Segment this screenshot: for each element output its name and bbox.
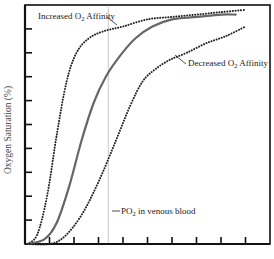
increased-affinity-label: Increased O2 Affinity — [38, 11, 116, 22]
decreased-leader-line — [175, 55, 186, 64]
oxygen-dissociation-chart: Oxygen Saturation (%) Increased O2 Affin… — [0, 0, 274, 259]
annotation-increased: Increased O2 Affinity — [38, 11, 117, 25]
annotation-venous: PO2 in venous blood — [112, 206, 196, 217]
annotation-decreased: Decreased O2 Affinity — [175, 55, 269, 69]
venous-label: PO2 in venous blood — [121, 206, 196, 217]
decreased-affinity-label: Decreased O2 Affinity — [188, 58, 269, 69]
y-axis-label: Oxygen Saturation (%) — [3, 86, 14, 174]
